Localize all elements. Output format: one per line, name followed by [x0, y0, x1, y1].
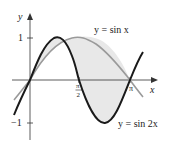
- y-axis-arrow-icon: [27, 13, 33, 20]
- x-tick-label-half-pi-den: 2: [77, 91, 81, 99]
- y-axis-label: y: [17, 11, 23, 22]
- chart: y x 1 −1 π 2 π y = sin x y = sin 2x: [0, 0, 171, 148]
- x-tick-label-half-pi-num: π: [76, 82, 80, 90]
- sin-x-label: y = sin x: [94, 24, 129, 35]
- y-tick-label-neg1: −1: [11, 117, 22, 128]
- x-axis-label: x: [149, 84, 155, 95]
- x-axis-arrow-icon: [151, 77, 158, 83]
- sin-2x-label: y = sin 2x: [118, 118, 158, 129]
- y-tick-label-1: 1: [18, 32, 23, 43]
- x-tick-label-pi: π: [129, 84, 133, 93]
- shaded-area: [30, 36, 130, 122]
